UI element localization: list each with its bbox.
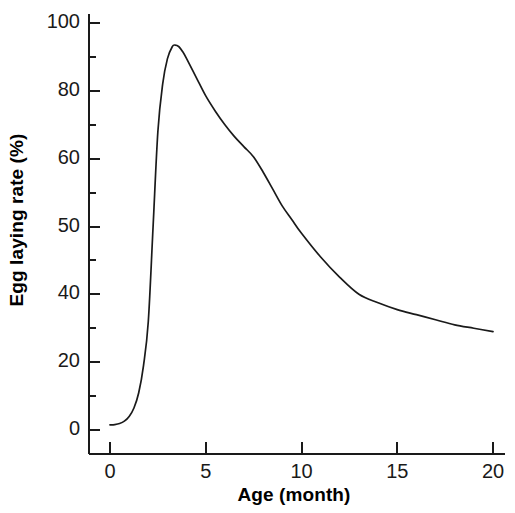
data-series-group <box>110 45 493 425</box>
y-axis-tick-label: 0 <box>22 417 80 440</box>
x-axis-ticks <box>110 442 493 454</box>
y-axis-tick-label: 20 <box>22 349 80 372</box>
x-axis-tick-label: 20 <box>463 460 515 483</box>
series-line-0 <box>110 45 493 425</box>
y-axis-tick-label: 60 <box>22 146 80 169</box>
x-axis-tick-label: 5 <box>176 460 236 483</box>
x-axis-tick-label: 15 <box>367 460 427 483</box>
axis-lines <box>89 14 505 454</box>
y-axis-tick-label: 50 <box>22 214 80 237</box>
y-axis-ticks <box>89 23 100 430</box>
x-axis-tick-label: 0 <box>80 460 140 483</box>
x-axis-tick-label: 10 <box>272 460 332 483</box>
y-axis-tick-label: 100 <box>22 10 80 33</box>
egg-laying-rate-chart: Egg laying rate (%) Age (month) 02040506… <box>0 0 515 513</box>
y-axis-tick-label: 40 <box>22 281 80 304</box>
y-axis-tick-label: 80 <box>22 78 80 101</box>
